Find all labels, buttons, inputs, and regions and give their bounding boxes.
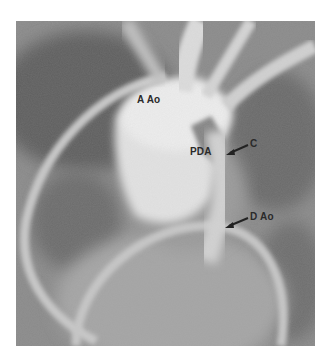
label-ascending-aorta: A Ao [137,94,160,105]
label-pda: PDA [190,146,212,157]
label-c: C [250,138,257,149]
angiogram-drawing [16,21,315,346]
angiogram-image: A Ao PDA C D Ao [16,21,315,346]
label-descending-aorta: D Ao [250,211,274,222]
